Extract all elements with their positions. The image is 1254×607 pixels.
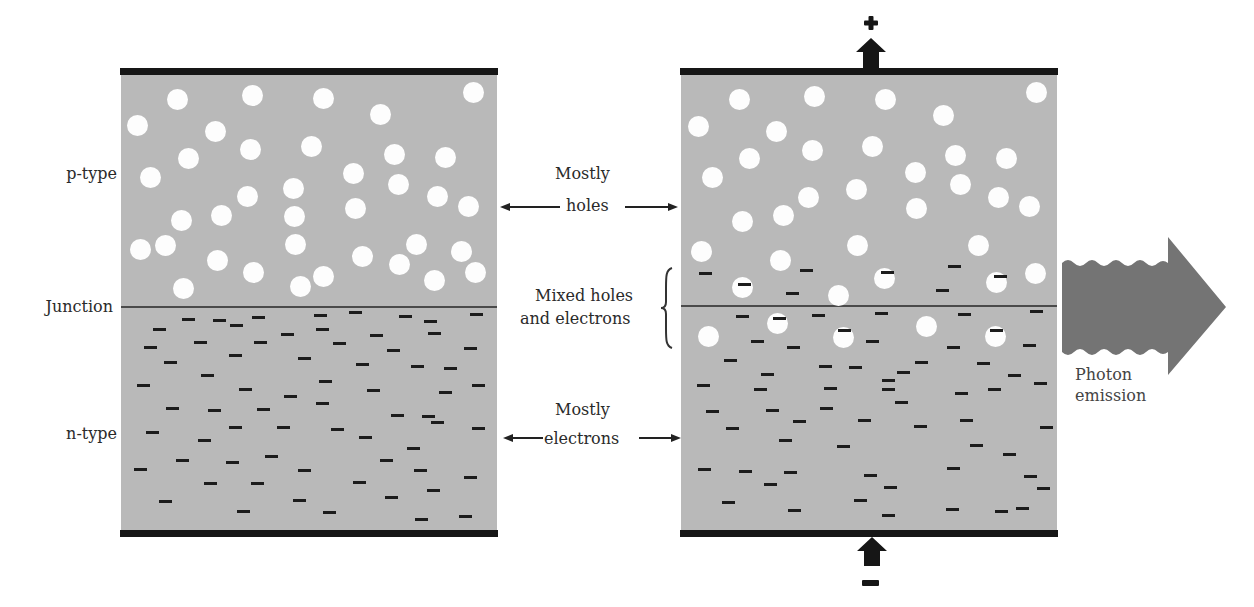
hole-particle [211, 205, 232, 226]
electron-particle [153, 328, 166, 331]
hole-particle [875, 89, 896, 110]
hole-particle [862, 136, 883, 157]
electron-particle [464, 476, 477, 479]
right-junction-line [681, 305, 1057, 307]
electron-particle [176, 459, 189, 462]
hole-particle [933, 105, 954, 126]
hole-particle [773, 205, 794, 226]
electron-particle [947, 346, 960, 349]
electron-particle [201, 374, 214, 377]
hole-particle [130, 239, 151, 260]
junction-label: Junction [46, 297, 113, 317]
electron-particle [415, 518, 428, 521]
electron-particle [284, 395, 297, 398]
electron-particle [881, 271, 894, 274]
electron-particle [724, 359, 737, 362]
hole-particle [243, 262, 264, 283]
electron-particle [882, 379, 895, 382]
hole-particle [945, 145, 966, 166]
electron-particle [738, 283, 751, 286]
hole-particle [691, 241, 712, 262]
mixed-region-brace [660, 266, 676, 350]
electron-particle [464, 347, 477, 350]
electron-particle [884, 486, 897, 489]
electron-particle [323, 511, 336, 514]
electron-particle [697, 384, 710, 387]
electron-particle [866, 340, 879, 343]
hole-particle [384, 144, 405, 165]
electron-particle [208, 409, 221, 412]
hole-particle [284, 206, 305, 227]
electron-particle [1037, 487, 1050, 490]
electron-particle [251, 482, 264, 485]
hole-particle [906, 198, 927, 219]
electron-particle [936, 289, 949, 292]
electron-particle [1023, 344, 1036, 347]
electron-particle [391, 414, 404, 417]
hole-particle [343, 163, 364, 184]
electron-particle [414, 469, 427, 472]
electron-particle [820, 407, 833, 410]
electron-particle [960, 419, 973, 422]
electron-particle [349, 311, 362, 314]
positive-current-arrow-icon [854, 36, 888, 70]
electron-particle [265, 455, 278, 458]
electron-particle [293, 499, 306, 502]
hole-particle [1019, 196, 1040, 217]
electron-particle [706, 410, 719, 413]
electron-particle [144, 346, 157, 349]
hole-particle [313, 266, 334, 287]
hole-particle [802, 140, 823, 161]
electron-particle [1024, 475, 1037, 478]
electron-particle [988, 388, 1001, 391]
hole-particle [1025, 263, 1046, 284]
electron-particle [380, 459, 393, 462]
photon-emission-arrow-icon [1060, 237, 1230, 377]
electron-particle [970, 444, 983, 447]
hole-particle [451, 241, 472, 262]
electron-particle [164, 361, 177, 364]
hole-particle [463, 82, 484, 103]
hole-particle [804, 86, 825, 107]
hole-particle [388, 174, 409, 195]
electron-particle [994, 275, 1007, 278]
electron-particle [252, 316, 265, 319]
electron-particle [281, 333, 294, 336]
electron-particle [766, 409, 779, 412]
electron-particle [751, 340, 764, 343]
hole-particle [916, 316, 937, 337]
hole-particle [178, 148, 199, 169]
electron-particle [948, 265, 961, 268]
electron-particle [914, 425, 927, 428]
electron-particle [854, 499, 867, 502]
electron-particle [411, 365, 424, 368]
electron-particle [882, 514, 895, 517]
electron-particle [367, 389, 380, 392]
electron-particle [739, 470, 752, 473]
electron-particle [786, 292, 799, 295]
hole-particle [1026, 82, 1047, 103]
electron-particle [370, 334, 383, 337]
electron-particle [257, 408, 270, 411]
plus-sign-icon [863, 15, 879, 31]
hole-particle [242, 85, 263, 106]
electron-particle [812, 314, 825, 317]
hole-particle [173, 278, 194, 299]
electron-particle [385, 496, 398, 499]
electron-particle [895, 401, 908, 404]
electron-particle [182, 318, 195, 321]
hole-particle [389, 254, 410, 275]
electron-particle [237, 510, 250, 513]
electron-particle [316, 402, 329, 405]
electron-particle [849, 366, 862, 369]
electron-particle [356, 363, 369, 366]
hole-particle [767, 313, 788, 334]
electron-particle [459, 515, 472, 518]
right-bottom-electrode [680, 530, 1058, 537]
electron-particle [793, 420, 806, 423]
left-bottom-electrode [120, 530, 498, 537]
hole-particle [732, 211, 753, 232]
hole-particle [698, 326, 719, 347]
electron-particle [137, 384, 150, 387]
photon-label-line1: Photon [1075, 365, 1132, 385]
